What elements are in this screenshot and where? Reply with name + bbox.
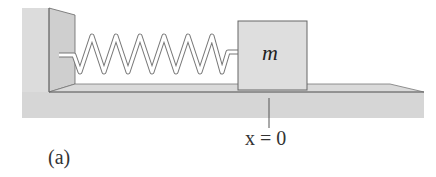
wall-front (49, 8, 75, 92)
panel-label: (a) (48, 147, 70, 167)
floor-top (49, 84, 424, 92)
floor-front (22, 92, 424, 118)
position-label: x = 0 (245, 128, 286, 148)
spring (59, 36, 238, 72)
mass-label: m (262, 42, 278, 64)
